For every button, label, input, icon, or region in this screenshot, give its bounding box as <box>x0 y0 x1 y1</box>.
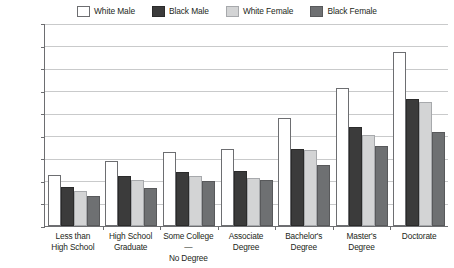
x-tick-mark <box>103 226 104 230</box>
bar[interactable] <box>247 178 260 226</box>
x-tick-mark <box>275 226 276 230</box>
x-tick-mark <box>160 226 161 230</box>
bar-group <box>390 24 448 226</box>
x-axis-label: Master's Degree <box>333 231 391 265</box>
bar[interactable] <box>291 149 304 226</box>
bar[interactable] <box>432 132 445 226</box>
x-axis-label: Some College— No Degree <box>159 231 217 265</box>
bar[interactable] <box>375 146 388 226</box>
legend-item[interactable]: White Male <box>77 6 135 17</box>
legend-swatch-icon <box>226 6 239 17</box>
legend-item[interactable]: White Female <box>226 6 293 17</box>
legend-label: White Female <box>243 7 293 16</box>
legend-swatch-icon <box>310 6 323 17</box>
legend-label: White Male <box>94 7 135 16</box>
bar[interactable] <box>278 118 291 226</box>
bar[interactable] <box>163 152 176 226</box>
x-axis-label: Associate Degree <box>217 231 275 265</box>
bar[interactable] <box>260 180 273 226</box>
x-axis-labels: Less than High SchoolHigh School Graduat… <box>44 231 448 265</box>
x-axis-label: Bachelor's Degree <box>275 231 333 265</box>
bar[interactable] <box>419 102 432 226</box>
bar[interactable] <box>131 180 144 226</box>
x-axis-label: Doctorate <box>390 231 448 265</box>
x-axis-label: High School Graduate <box>102 231 160 265</box>
x-axis-label: Less than High School <box>44 231 102 265</box>
bar[interactable] <box>221 149 234 226</box>
bar-group <box>218 24 276 226</box>
bar-group <box>103 24 161 226</box>
bar-group <box>45 24 103 226</box>
bar[interactable] <box>176 172 189 226</box>
x-tick-mark <box>390 226 391 230</box>
bar[interactable] <box>406 99 419 226</box>
plot-wrapper: $180,000$160,000$140,000$120,000$100,000… <box>44 24 448 227</box>
bar[interactable] <box>144 188 157 226</box>
bar-group <box>333 24 391 226</box>
bar[interactable] <box>118 176 131 226</box>
bar[interactable] <box>48 175 61 226</box>
legend-item[interactable]: Black Male <box>152 6 209 17</box>
legend-item[interactable]: Black Female <box>310 6 377 17</box>
x-tick-mark <box>333 226 334 230</box>
bar-group <box>275 24 333 226</box>
bar-groups <box>45 24 448 226</box>
bar-group <box>160 24 218 226</box>
bar[interactable] <box>336 88 349 226</box>
chart-legend: White MaleBlack MaleWhite FemaleBlack Fe… <box>0 2 454 20</box>
legend-label: Black Female <box>327 7 377 16</box>
bar[interactable] <box>317 165 330 226</box>
bar[interactable] <box>105 161 118 226</box>
legend-swatch-icon <box>77 6 90 17</box>
legend-label: Black Male <box>169 7 209 16</box>
bar[interactable] <box>393 52 406 226</box>
x-tick-mark <box>218 226 219 230</box>
bar[interactable] <box>234 171 247 226</box>
bar[interactable] <box>87 196 100 226</box>
bar[interactable] <box>189 176 202 226</box>
bar-chart: White MaleBlack MaleWhite FemaleBlack Fe… <box>0 0 454 268</box>
bar[interactable] <box>349 127 362 226</box>
bar[interactable] <box>61 187 74 226</box>
bar[interactable] <box>304 150 317 226</box>
bar[interactable] <box>202 181 215 226</box>
plot-area: $180,000$160,000$140,000$120,000$100,000… <box>44 24 448 227</box>
bar[interactable] <box>362 135 375 226</box>
y-tick-mark <box>41 227 45 228</box>
bar[interactable] <box>74 191 87 226</box>
legend-swatch-icon <box>152 6 165 17</box>
